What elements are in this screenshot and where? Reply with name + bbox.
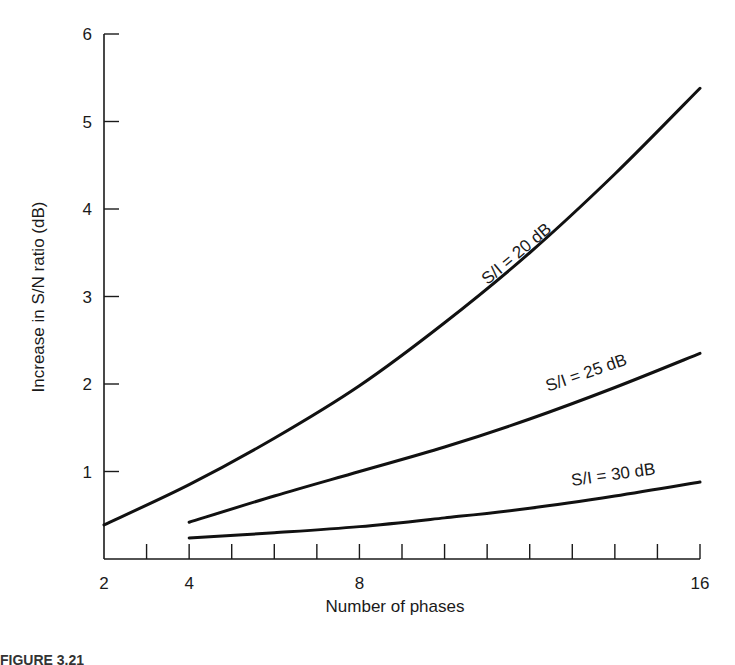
x-tick-label: 16 [691,574,710,593]
x-axis-label: Number of phases [326,597,465,616]
x-tick-label: 4 [184,574,193,593]
x-tick-label: 8 [355,574,364,593]
label-si-20db: S/I = 20 dB [478,219,555,288]
y-tick-label: 1 [83,463,92,482]
y-tick-label: 3 [83,288,92,307]
curve-si-25db [189,353,700,522]
y-tick-label: 4 [83,200,92,219]
chart: 12345624816 Number of phasesIncrease in … [0,0,735,665]
y-tick-label: 6 [83,25,92,44]
axes: 12345624816 [83,25,710,593]
figure-caption: FIGURE 3.21 [0,652,84,665]
y-tick-label: 2 [83,375,92,394]
y-tick-label: 5 [83,113,92,132]
y-axis-label: Increase in S/N ratio (dB) [29,202,48,393]
x-tick-label: 2 [99,574,108,593]
curve-si-30db [189,482,700,538]
label-si-25db: S/I = 25 dB [543,350,629,396]
label-si-30db: S/I = 30 dB [570,459,656,490]
